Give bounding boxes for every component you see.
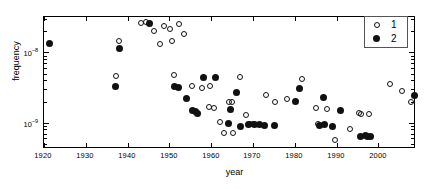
legend-open-circle-icon bbox=[374, 22, 380, 28]
legend-box: 1 2 bbox=[364, 16, 408, 48]
data-point-series-1 bbox=[243, 112, 249, 118]
data-point-series-1 bbox=[157, 41, 163, 47]
y-tick-5e-9 bbox=[411, 74, 414, 75]
data-point-series-2 bbox=[225, 120, 232, 127]
data-point-series-2 bbox=[329, 123, 336, 130]
legend-label-1: 1 bbox=[391, 19, 397, 30]
y-tick-6e-10 bbox=[44, 138, 47, 139]
x-tick-1980 bbox=[295, 143, 296, 147]
y-tick-1e-8 bbox=[409, 52, 414, 53]
data-point-series-1 bbox=[221, 130, 227, 136]
y-tick-5e-9 bbox=[44, 74, 47, 75]
y-tick-1e-9 bbox=[409, 123, 414, 124]
data-point-series-1 bbox=[272, 99, 278, 105]
x-tick-1940 bbox=[128, 143, 129, 147]
data-point-series-1 bbox=[324, 106, 330, 112]
x-tick-label-1940: 1940 bbox=[107, 151, 147, 160]
data-point-series-2 bbox=[183, 95, 190, 102]
x-axis-title: year bbox=[20, 167, 429, 177]
y-tick-6e-9 bbox=[411, 68, 414, 69]
y-tick-3e-8 bbox=[44, 19, 47, 20]
y-tick-6e-9 bbox=[44, 68, 47, 69]
y-tick-label-1e-8: 10–8 bbox=[8, 47, 38, 58]
x-tick-top-1970 bbox=[253, 17, 254, 21]
x-tick-top-1960 bbox=[211, 17, 212, 21]
y-tick-2e-8 bbox=[411, 31, 414, 32]
y-tick-8e-9 bbox=[411, 59, 414, 60]
data-point-series-2 bbox=[292, 98, 299, 105]
x-tick-label-2000: 2000 bbox=[358, 151, 398, 160]
x-tick-label-1960: 1960 bbox=[191, 151, 231, 160]
y-tick-3e-8 bbox=[411, 19, 414, 20]
scatter-figure: frequency 10–8 10–9 1920 1930 1940 1950 … bbox=[0, 0, 429, 189]
data-point-series-2 bbox=[46, 40, 53, 47]
data-point-series-1 bbox=[113, 73, 119, 79]
data-point-series-2 bbox=[320, 94, 327, 101]
data-point-series-1 bbox=[171, 72, 177, 78]
data-point-series-1 bbox=[332, 137, 338, 143]
data-point-series-1 bbox=[116, 38, 122, 44]
y-tick-3e-9 bbox=[411, 89, 414, 90]
data-point-series-2 bbox=[227, 106, 234, 113]
y-tick-7e-9 bbox=[411, 63, 414, 64]
x-tick-label-1990: 1990 bbox=[316, 151, 356, 160]
x-tick-top-1950 bbox=[169, 17, 170, 21]
data-point-series-1 bbox=[169, 38, 175, 44]
y-tick-8e-9 bbox=[44, 59, 47, 60]
data-point-series-2 bbox=[175, 84, 182, 91]
y-tick-2e-8 bbox=[44, 31, 47, 32]
data-point-series-2 bbox=[271, 122, 278, 129]
x-tick-top-1980 bbox=[295, 17, 296, 21]
data-point-series-1 bbox=[263, 92, 269, 98]
y-tick-5e-10 bbox=[411, 144, 414, 145]
y-tick-8e-10 bbox=[411, 129, 414, 130]
data-point-series-1 bbox=[230, 130, 236, 136]
y-tick-2e-9 bbox=[44, 102, 47, 103]
y-tick-8e-10 bbox=[44, 129, 47, 130]
y-tick-7e-9 bbox=[44, 63, 47, 64]
data-point-series-1 bbox=[167, 26, 173, 32]
y-tick-9e-10 bbox=[44, 126, 47, 127]
y-tick-6e-10 bbox=[411, 138, 414, 139]
legend-label-2: 2 bbox=[391, 33, 397, 44]
data-point-series-1 bbox=[176, 21, 182, 27]
data-point-series-2 bbox=[194, 110, 201, 117]
data-point-series-2 bbox=[367, 133, 374, 140]
data-point-series-1 bbox=[189, 83, 195, 89]
x-tick-top-1940 bbox=[128, 17, 129, 21]
data-point-series-1 bbox=[313, 105, 319, 111]
x-tick-label-1930: 1930 bbox=[65, 151, 105, 160]
data-point-series-1 bbox=[229, 99, 235, 105]
data-point-series-2 bbox=[146, 20, 153, 27]
x-tick-label-1950: 1950 bbox=[149, 151, 189, 160]
data-point-series-2 bbox=[233, 89, 240, 96]
data-point-series-1 bbox=[299, 76, 305, 82]
data-point-series-2 bbox=[200, 74, 207, 81]
data-point-series-2 bbox=[237, 123, 244, 130]
data-point-series-1 bbox=[207, 83, 213, 89]
x-tick-label-1970: 1970 bbox=[232, 151, 272, 160]
y-tick-4e-9 bbox=[44, 80, 47, 81]
x-tick-1990 bbox=[337, 143, 338, 147]
x-tick-top-1990 bbox=[337, 17, 338, 21]
data-point-series-1 bbox=[366, 111, 372, 117]
data-point-series-1 bbox=[217, 119, 223, 125]
y-tick-9e-9 bbox=[44, 56, 47, 57]
y-tick-1e-8 bbox=[44, 52, 49, 53]
data-point-series-1 bbox=[181, 31, 187, 37]
x-tick-1960 bbox=[211, 143, 212, 147]
x-tick-label-1980: 1980 bbox=[274, 151, 314, 160]
data-point-series-2 bbox=[337, 107, 344, 114]
y-tick-1e-9 bbox=[44, 123, 49, 124]
data-point-series-1 bbox=[399, 88, 405, 94]
data-point-series-1 bbox=[358, 111, 364, 117]
y-tick-label-1e-9: 10–9 bbox=[8, 118, 38, 129]
y-tick-4e-9 bbox=[411, 80, 414, 81]
y-tick-7e-10 bbox=[44, 134, 47, 135]
data-point-series-2 bbox=[112, 83, 119, 90]
x-tick-1950 bbox=[169, 143, 170, 147]
y-tick-5e-10 bbox=[44, 144, 47, 145]
legend-filled-circle-icon bbox=[373, 35, 380, 42]
data-point-series-1 bbox=[284, 96, 290, 102]
data-point-series-2 bbox=[116, 45, 123, 52]
